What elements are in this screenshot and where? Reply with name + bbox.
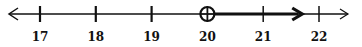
tick-label: 18 [87, 30, 104, 44]
tick-label: 17 [32, 30, 49, 44]
tick-label: 20 [199, 30, 216, 44]
tick-label: 22 [311, 30, 328, 44]
number-line: 171819202122 [0, 0, 362, 47]
tick-label: 21 [255, 30, 272, 44]
tick-label: 19 [143, 30, 160, 44]
